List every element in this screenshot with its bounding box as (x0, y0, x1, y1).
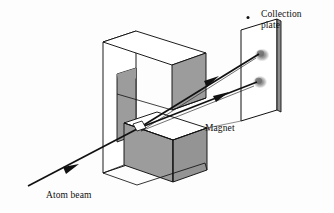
label-atom-beam: Atom beam (46, 190, 92, 201)
label-collection-plate: Collection plate (261, 9, 302, 31)
plate-reference-dot (247, 16, 250, 19)
collection-plate-face (241, 19, 277, 121)
collection-plate-edge (277, 19, 281, 112)
collection-plate (241, 16, 281, 123)
stern-gerlach-figure: Collection plate Magnet Atom beam (0, 0, 334, 213)
label-magnet: Magnet (205, 123, 235, 134)
beam-spot-upper-core (257, 50, 264, 56)
figure-canvas (0, 0, 334, 213)
